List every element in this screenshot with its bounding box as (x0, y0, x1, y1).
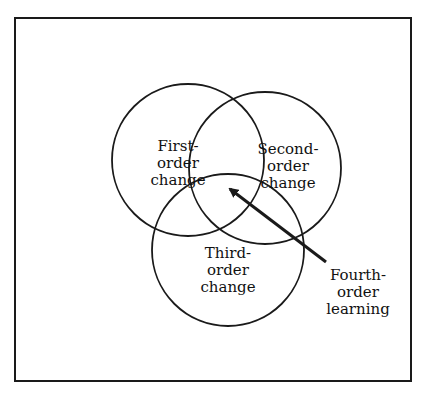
venn-diagram (0, 0, 430, 403)
label-second-order: Second- order change (248, 141, 328, 192)
label-fourth-order: Fourth- order learning (318, 267, 398, 318)
label-third-order: Third- order change (188, 245, 268, 296)
label-first-order: First- order change (138, 138, 218, 189)
